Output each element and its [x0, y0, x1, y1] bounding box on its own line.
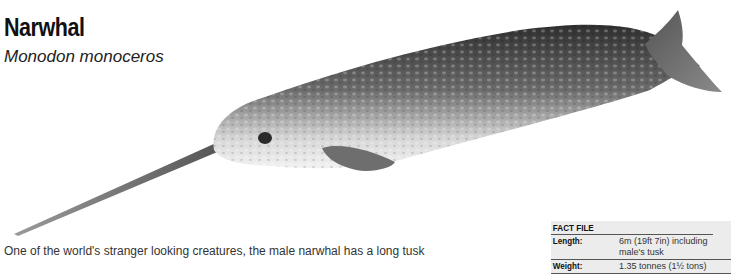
fact-file-row-weight: Weight: 1.35 tonnes (1½ tons) — [551, 260, 731, 274]
eye — [258, 132, 272, 144]
fact-label: Length: — [551, 235, 610, 259]
fact-label: Weight: — [551, 260, 610, 273]
fact-value: 1.35 tonnes (1½ tons) — [617, 260, 731, 273]
fact-file-row-length: Length: 6m (19ft 7in) including male's t… — [551, 235, 731, 260]
fact-value: 6m (19ft 7in) including male's tusk — [617, 235, 731, 259]
intro-paragraph: One of the world's stranger looking crea… — [4, 244, 425, 258]
scientific-name: Monodon monoceros — [4, 47, 164, 67]
fact-file-heading: FACT FILE — [551, 221, 713, 235]
tusk — [14, 143, 222, 236]
page-title: Narwhal — [4, 13, 85, 42]
fact-file-table: FACT FILE Length: 6m (19ft 7in) includin… — [551, 221, 731, 274]
